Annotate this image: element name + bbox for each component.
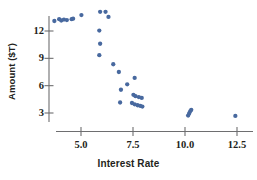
data-point (97, 53, 101, 57)
x-tick-label: 12.5 (228, 140, 246, 151)
x-tick-label: 5.0 (74, 140, 87, 151)
data-point (97, 28, 101, 32)
data-point (65, 18, 69, 22)
data-point (71, 17, 75, 21)
y-tick-label: 6 (20, 80, 44, 91)
data-point (103, 10, 107, 14)
scatter-chart: 369125.07.510.012.5 Amount ($T) Interest… (0, 0, 257, 180)
data-point (98, 42, 102, 46)
data-point (189, 108, 193, 112)
data-point (52, 19, 56, 23)
data-point (133, 76, 137, 80)
y-axis-title: Amount ($T) (6, 29, 17, 115)
y-tick-label: 3 (20, 108, 44, 119)
data-point (98, 10, 102, 14)
data-point (125, 82, 129, 86)
x-tick-label: 10.0 (176, 140, 194, 151)
data-point (140, 104, 144, 108)
x-axis-title: Interest Rate (0, 158, 257, 169)
y-tick-label: 9 (20, 53, 44, 64)
data-point (106, 15, 110, 19)
data-point (140, 96, 144, 100)
data-point (233, 114, 237, 118)
y-tick-label: 12 (20, 26, 44, 37)
data-point (118, 100, 122, 104)
x-tick-label: 7.5 (126, 140, 139, 151)
data-point (79, 13, 83, 17)
data-point (111, 62, 115, 66)
data-point (117, 70, 121, 74)
data-point (119, 88, 123, 92)
